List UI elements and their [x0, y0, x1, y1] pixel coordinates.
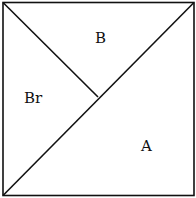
diagram-canvas: B Br A — [0, 0, 196, 198]
region-label-a: A — [140, 137, 152, 155]
region-label-b: B — [95, 29, 106, 47]
region-label-br: Br — [24, 89, 43, 107]
